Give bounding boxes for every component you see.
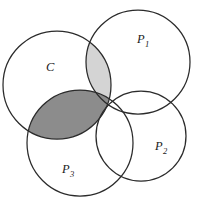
venn-diagram-figure: C P 1 P 2 P 3 — [0, 0, 197, 206]
set-label-c: C — [46, 60, 55, 74]
set-label-c-text: C — [46, 60, 55, 74]
set-label-p3-text: P — [61, 162, 70, 176]
set-label-p1-subscript: 1 — [145, 39, 149, 49]
set-label-p3-subscript: 3 — [69, 169, 74, 179]
venn-diagram-canvas: C P 1 P 2 P 3 — [0, 0, 197, 206]
set-label-p2-text: P — [154, 139, 163, 153]
set-label-p1-text: P — [136, 32, 145, 46]
